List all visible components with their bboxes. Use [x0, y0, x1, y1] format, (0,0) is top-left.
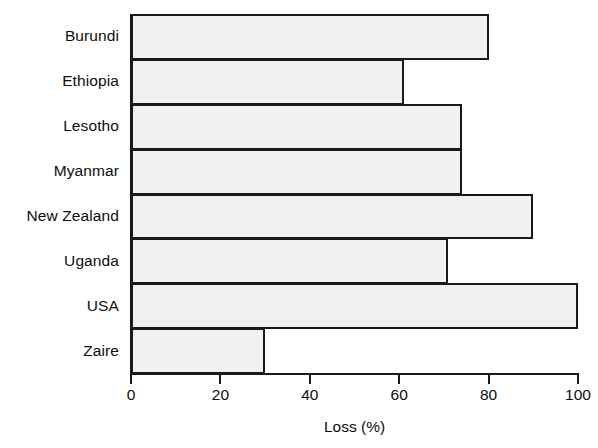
bar	[131, 238, 448, 284]
category-label: Uganda	[0, 253, 119, 269]
bar	[131, 59, 404, 105]
category-label: Zaire	[0, 343, 119, 359]
x-tick-label: 80	[480, 386, 497, 404]
category-label: USA	[0, 298, 119, 314]
x-tick-label: 100	[565, 386, 591, 404]
category-axis-labels: BurundiEthiopiaLesothoMyanmarNew Zealand…	[0, 14, 125, 373]
category-label: Ethiopia	[0, 73, 119, 89]
x-tick-label: 0	[127, 386, 136, 404]
category-label: New Zealand	[0, 208, 119, 224]
bar	[131, 104, 462, 150]
x-tick-label: 60	[391, 386, 408, 404]
category-label: Myanmar	[0, 163, 119, 179]
x-axis-title: Loss (%)	[131, 418, 578, 436]
bar	[131, 328, 265, 374]
x-tick-mark	[309, 375, 311, 384]
plot-area	[131, 14, 578, 373]
x-tick-mark	[398, 375, 400, 384]
x-tick-label: 20	[212, 386, 229, 404]
x-tick-mark	[219, 375, 221, 384]
bar	[131, 194, 533, 240]
bar	[131, 283, 578, 329]
x-tick-mark	[130, 375, 132, 384]
x-tick-mark	[488, 375, 490, 384]
bar	[131, 149, 462, 195]
category-label: Lesotho	[0, 118, 119, 134]
bar-chart: BurundiEthiopiaLesothoMyanmarNew Zealand…	[0, 0, 598, 448]
x-tick-label: 40	[301, 386, 318, 404]
x-tick-mark	[577, 375, 579, 384]
bar	[131, 14, 489, 60]
category-label: Burundi	[0, 28, 119, 44]
